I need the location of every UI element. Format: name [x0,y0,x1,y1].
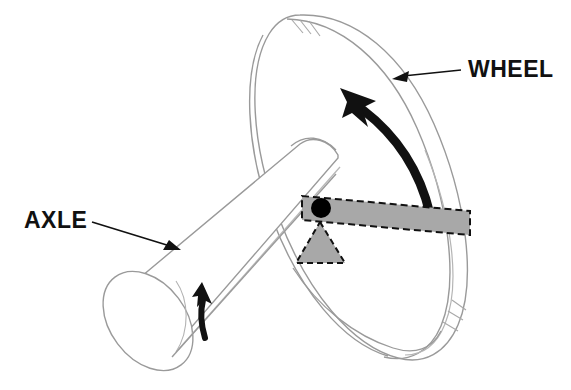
diagram-canvas: WHEEL AXLE [0,0,571,390]
wheel-leader-line [403,70,461,76]
wheel-and-axle-diagram: WHEEL AXLE [0,0,571,390]
axle-leader-line [92,222,170,246]
axle-label: AXLE [24,207,87,233]
wheel-label: WHEEL [468,56,554,82]
pivot-point [311,198,331,218]
axle-label-leader [92,222,181,250]
axle-rotation-arrow-shaft [201,300,205,338]
